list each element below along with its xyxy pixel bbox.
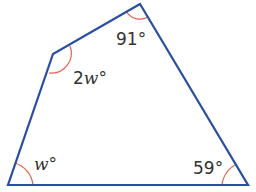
- angle-label-bottom-right: 59°: [193, 158, 223, 178]
- angle-label-bottom-left: w°: [34, 154, 57, 174]
- angle-arc-bottom-left: [15, 163, 33, 185]
- angle-label-top: 91°: [116, 29, 146, 49]
- quadrilateral-diagram: 91° 2w° w° 59°: [0, 0, 256, 192]
- angle-arc-bottom-right: [222, 164, 237, 185]
- angle-label-left: 2w°: [73, 68, 107, 88]
